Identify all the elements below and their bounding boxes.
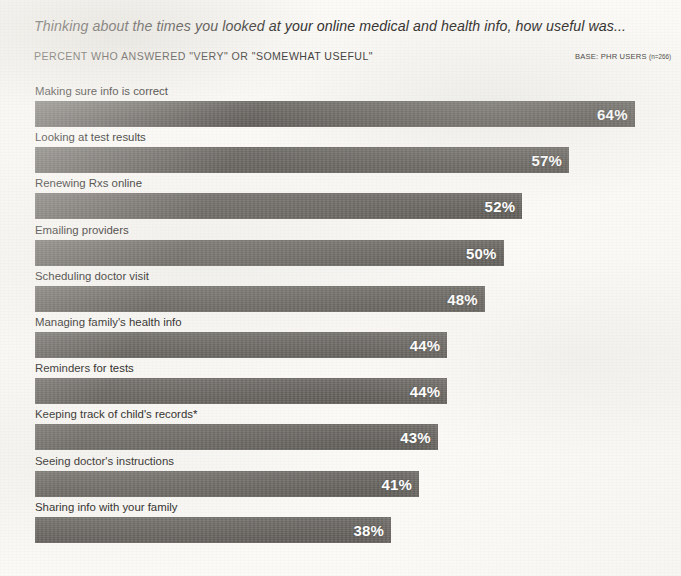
bar-category-label: Looking at test results bbox=[35, 130, 146, 145]
bar-value-label: 50% bbox=[466, 244, 497, 261]
bar-category-label: Scheduling doctor visit bbox=[35, 269, 149, 284]
bar: 50% bbox=[35, 240, 504, 266]
bar-row: Scheduling doctor visit48% bbox=[35, 269, 681, 315]
bar-row: Making sure info is correct64% bbox=[35, 84, 681, 130]
bar-track: 43% bbox=[35, 424, 681, 450]
bar-category-label: Making sure info is correct bbox=[35, 84, 168, 99]
bar-row: Keeping track of child's records*43% bbox=[35, 407, 681, 453]
bar-row: Reminders for tests44% bbox=[35, 361, 681, 407]
bar-track: 44% bbox=[35, 332, 681, 358]
bar-track: 57% bbox=[35, 147, 681, 173]
bar-row: Seeing doctor's instructions41% bbox=[35, 454, 681, 500]
bar-value-label: 38% bbox=[353, 521, 384, 538]
bar-track: 38% bbox=[35, 517, 681, 543]
bar-track: 52% bbox=[35, 193, 681, 219]
bar: 44% bbox=[35, 332, 447, 358]
bar-chart-plot: Making sure info is correct64%Looking at… bbox=[0, 84, 681, 549]
bar-category-label: Emailing providers bbox=[35, 223, 129, 238]
bar-track: 41% bbox=[35, 471, 681, 497]
bar-value-label: 44% bbox=[410, 383, 441, 400]
bar-category-label: Sharing info with your family bbox=[35, 500, 177, 515]
bar-track: 44% bbox=[35, 378, 681, 404]
bar: 57% bbox=[35, 147, 569, 173]
bar: 38% bbox=[35, 517, 391, 543]
bar-value-label: 41% bbox=[382, 475, 413, 492]
bar-track: 50% bbox=[35, 240, 681, 266]
bar-row: Looking at test results57% bbox=[35, 130, 681, 176]
bar: 41% bbox=[35, 471, 419, 497]
base-note-sample-size: (n=266) bbox=[649, 53, 671, 60]
bar: 48% bbox=[35, 286, 485, 312]
bar-category-label: Managing family's health info bbox=[35, 315, 182, 330]
bar-value-label: 64% bbox=[597, 106, 628, 123]
bar: 44% bbox=[35, 378, 447, 404]
bar-value-label: 57% bbox=[531, 152, 562, 169]
chart-subtitle: PERCENT WHO ANSWERED "VERY" OR "SOMEWHAT… bbox=[34, 49, 373, 63]
bar-value-label: 44% bbox=[410, 337, 441, 354]
bar-category-label: Reminders for tests bbox=[35, 361, 134, 376]
bar: 64% bbox=[35, 101, 635, 127]
bar-category-label: Renewing Rxs online bbox=[35, 176, 142, 191]
base-note-label: BASE: PHR USERS bbox=[575, 52, 647, 61]
bar-track: 64% bbox=[35, 101, 681, 127]
base-note: BASE: PHR USERS (n=266) bbox=[575, 52, 671, 61]
bar-track: 48% bbox=[35, 286, 681, 312]
bar-category-label: Seeing doctor's instructions bbox=[35, 454, 174, 469]
bar-row: Renewing Rxs online52% bbox=[35, 176, 681, 222]
bar: 52% bbox=[35, 193, 522, 219]
bar-value-label: 48% bbox=[447, 290, 478, 307]
bar-row: Managing family's health info44% bbox=[35, 315, 681, 361]
chart-page: Thinking about the times you looked at y… bbox=[0, 0, 681, 576]
bar: 43% bbox=[35, 424, 438, 450]
bar-row: Emailing providers50% bbox=[35, 223, 681, 269]
bar-row: Sharing info with your family38% bbox=[35, 500, 681, 546]
bar-value-label: 52% bbox=[485, 198, 516, 215]
page-title: Thinking about the times you looked at y… bbox=[34, 17, 654, 35]
bar-value-label: 43% bbox=[400, 429, 431, 446]
bar-category-label: Keeping track of child's records* bbox=[35, 407, 197, 422]
